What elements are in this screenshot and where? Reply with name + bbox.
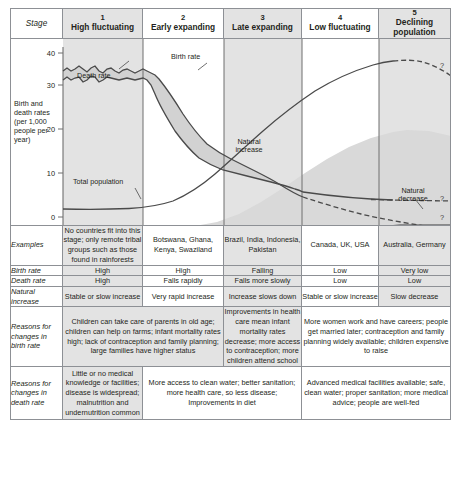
- birth-rate-stage-5: Very low: [379, 265, 451, 276]
- header-stage-3: 3 Late expanding: [224, 9, 302, 39]
- dtm-figure: Stage 1 High fluctuating 2 Early expandi…: [0, 0, 460, 477]
- death-rate-label: Death rate: [77, 72, 111, 81]
- table-row: Death rate High Falls rapidly Falls more…: [11, 276, 451, 287]
- row-label-death-rate: Death rate: [11, 276, 63, 287]
- stage-band-1: [63, 39, 143, 225]
- question-mark-death: ?: [440, 213, 444, 222]
- y-axis-ticks: 40 30 20 10 0: [47, 48, 63, 221]
- chart-cell: Birth and death rates (per 1,000 people …: [11, 38, 451, 225]
- reasons-death-stage-1: Little or no medical knowledge or facili…: [63, 366, 143, 419]
- svg-text:10: 10: [47, 168, 55, 177]
- header-stage-1: 1 High fluctuating: [63, 9, 143, 39]
- reasons-birth-stages-4-5: More women work and have careers; people…: [302, 307, 451, 367]
- chart-row: Birth and death rates (per 1,000 people …: [11, 38, 451, 225]
- examples-stage-4: Canada, UK, USA: [302, 225, 379, 265]
- row-label-examples: Examples: [11, 225, 63, 265]
- stage-name: Declining population: [379, 18, 450, 38]
- header-stage-2: 2 Early expanding: [143, 9, 224, 39]
- natural-increase-stage-3: Increase slows down: [224, 287, 302, 307]
- stage-name: Early expanding: [143, 23, 223, 33]
- natural-increase-label: Natural increase: [227, 138, 271, 155]
- row-label-reasons-death-rate: Reasons for changes in death rate: [11, 366, 63, 419]
- examples-stage-2: Botswana, Ghana, Kenya, Swaziland: [143, 225, 224, 265]
- natural-decrease-label: Natural decrease: [389, 187, 437, 204]
- death-rate-stage-5: Low: [379, 276, 451, 287]
- examples-stage-5: Australia, Germany: [379, 225, 451, 265]
- question-mark-population: ?: [440, 61, 444, 70]
- table-header-row: Stage 1 High fluctuating 2 Early expandi…: [11, 9, 451, 39]
- natural-increase-stage-2: Very rapid increase: [143, 287, 224, 307]
- examples-stage-1: No countries fit into this stage; only r…: [63, 225, 143, 265]
- death-rate-stage-3: Falls more slowly: [224, 276, 302, 287]
- header-stage-5: 5 Declining population: [379, 9, 451, 39]
- table-row: Birth rate High High Falling Low Very lo…: [11, 265, 451, 276]
- dtm-table: Stage 1 High fluctuating 2 Early expandi…: [10, 8, 451, 420]
- header-stage-label: Stage: [11, 9, 63, 39]
- svg-text:30: 30: [47, 80, 55, 89]
- birth-rate-stage-4: Low: [302, 265, 379, 276]
- svg-text:40: 40: [47, 48, 55, 57]
- row-label-birth-rate: Birth rate: [11, 265, 63, 276]
- birth-rate-stage-1: High: [63, 265, 143, 276]
- row-label-natural-increase: Natural increase: [11, 287, 63, 307]
- table-row: Natural increase Stable or slow increase…: [11, 287, 451, 307]
- reasons-birth-stages-1-2: Children can take care of parents in old…: [63, 307, 224, 367]
- stage-name: Low fluctuating: [302, 23, 378, 33]
- total-population-label: Total population: [73, 178, 123, 187]
- table-row: Reasons for changes in birth rate Childr…: [11, 307, 451, 367]
- death-rate-stage-4: Low: [302, 276, 379, 287]
- examples-stage-3: Brazil, India, Indonesia, Pakistan: [224, 225, 302, 265]
- stage-name: Late expanding: [224, 23, 301, 33]
- natural-increase-stage-5: Slow decrease: [379, 287, 451, 307]
- chart-plot: 40 30 20 10 0: [11, 39, 450, 225]
- birth-rate-stage-2: High: [143, 265, 224, 276]
- reasons-birth-stage-3: Improvements in health care mean infant …: [224, 307, 302, 367]
- natural-increase-stage-4: Stable or slow increase: [302, 287, 379, 307]
- svg-text:20: 20: [47, 124, 55, 133]
- dtm-chart: Birth and death rates (per 1,000 people …: [11, 39, 450, 225]
- natural-increase-stage-1: Stable or slow increase: [63, 287, 143, 307]
- svg-text:0: 0: [51, 212, 55, 221]
- reasons-death-stages-2-3: More access to clean water; better sanit…: [143, 366, 302, 419]
- table-row: Reasons for changes in death rate Little…: [11, 366, 451, 419]
- table-row: Examples No countries fit into this stag…: [11, 225, 451, 265]
- reasons-death-stages-4-5: Advanced medical facilities available; s…: [302, 366, 451, 419]
- death-rate-stage-2: Falls rapidly: [143, 276, 224, 287]
- birth-rate-stage-3: Falling: [224, 265, 302, 276]
- question-mark-birth: ?: [440, 194, 444, 203]
- death-rate-stage-1: High: [63, 276, 143, 287]
- stage-name: High fluctuating: [63, 23, 142, 33]
- header-stage-4: 4 Low fluctuating: [302, 9, 379, 39]
- row-label-reasons-birth-rate: Reasons for changes in birth rate: [11, 307, 63, 367]
- birth-rate-label: Birth rate: [171, 53, 200, 62]
